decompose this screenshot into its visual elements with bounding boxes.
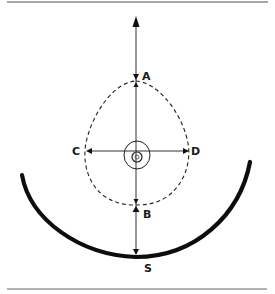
arrow-down-at-a-icon [133, 74, 139, 80]
dashed-orbit-path [85, 81, 189, 205]
arrow-up-at-b-icon [133, 206, 140, 212]
arrow-down-at-b-icon [134, 199, 139, 204]
label-b: B [143, 208, 151, 221]
diagram-figure: A C D B S [0, 0, 275, 294]
arrow-right-icon [183, 148, 189, 154]
arrow-up-icon [133, 16, 140, 27]
arrow-up-at-a-icon [134, 82, 139, 87]
label-d: D [191, 145, 200, 158]
arrow-down-at-s-icon [133, 249, 139, 255]
arrow-left-icon [86, 148, 92, 154]
label-a: A [142, 70, 151, 83]
inner-circle [132, 152, 142, 162]
label-s: S [144, 262, 152, 275]
label-c: C [72, 145, 80, 158]
